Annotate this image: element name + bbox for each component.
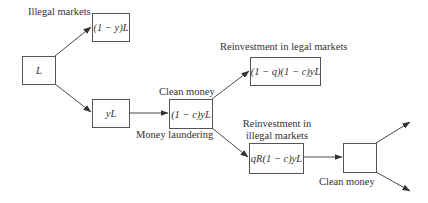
label-clean-money-top: Clean money — [159, 86, 215, 98]
label-reinvest-illegal-line2: illegal markets — [240, 130, 314, 142]
arrow-final-out-upper — [376, 122, 410, 143]
node-final — [343, 143, 377, 173]
node-yl: yL — [92, 99, 130, 128]
arrow-final-out-lower — [376, 172, 410, 191]
label-money-laundering: Money laundering — [136, 129, 213, 141]
arrow-start-to-yl — [55, 84, 91, 112]
node-legal-reinvest: (1 − q)(1 − c)yL — [250, 57, 321, 86]
label-illegal-markets: Illegal markets — [28, 6, 91, 18]
arrow-start-to-illegal — [55, 27, 91, 56]
node-start-text: L — [36, 65, 42, 76]
node-illegal-text: (1 − y)L — [93, 22, 128, 33]
node-legal-reinvest-text: (1 − q)(1 − c)yL — [251, 66, 321, 77]
node-illegal-reinvest: qR(1 − c)yL — [249, 143, 304, 174]
label-reinvest-illegal: Reinvestment in illegal markets — [240, 118, 314, 142]
node-clean: (1 − c)yL — [169, 99, 213, 129]
label-reinvest-illegal-line1: Reinvestment in — [240, 118, 314, 130]
node-illegal: (1 − y)L — [92, 13, 130, 42]
node-yl-text: yL — [106, 108, 117, 119]
node-illegal-reinvest-text: qR(1 − c)yL — [251, 153, 302, 164]
arrow-clean-to-legal — [212, 71, 249, 99]
node-clean-text: (1 − c)yL — [171, 109, 211, 120]
label-clean-money-bottom: Clean money — [319, 176, 375, 188]
label-reinvest-legal: Reinvestment in legal markets — [220, 41, 347, 53]
node-start-L: L — [22, 56, 56, 85]
